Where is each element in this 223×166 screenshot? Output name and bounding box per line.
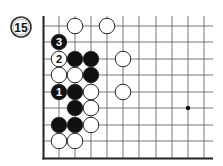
white-stone — [115, 84, 131, 100]
black-stone — [67, 84, 83, 100]
white-stone — [83, 100, 99, 116]
star-points — [186, 106, 190, 110]
black-stone: 1 — [51, 84, 67, 100]
white-stone — [51, 133, 67, 149]
problem-number: 15 — [14, 21, 28, 35]
white-stone — [99, 18, 115, 34]
black-stone — [67, 100, 83, 116]
black-stone — [83, 51, 99, 67]
move-number-label: 3 — [56, 36, 62, 48]
white-stone — [83, 117, 99, 133]
black-stone: 3 — [51, 34, 67, 50]
white-stone: 2 — [51, 51, 67, 67]
black-stone — [67, 51, 83, 67]
black-stone — [83, 67, 99, 83]
white-stone — [67, 18, 83, 34]
white-stone — [67, 133, 83, 149]
white-stone — [51, 67, 67, 83]
go-board-diagram: 15 321 — [0, 0, 223, 166]
problem-number-badge: 15 — [11, 17, 31, 37]
white-stone — [115, 51, 131, 67]
move-number-label: 1 — [56, 86, 62, 98]
white-stone — [67, 67, 83, 83]
white-stone — [83, 84, 99, 100]
move-number-label: 2 — [56, 53, 62, 65]
star-point — [186, 106, 190, 110]
black-stone — [51, 117, 67, 133]
black-stone — [67, 117, 83, 133]
